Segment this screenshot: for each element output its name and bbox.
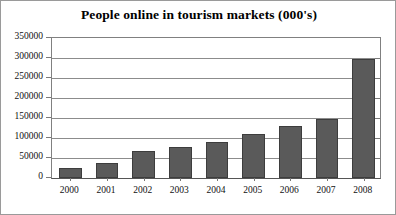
x-axis-tick xyxy=(254,178,255,181)
y-axis-tick-label: 0 xyxy=(0,172,43,182)
x-axis-tick xyxy=(70,178,71,181)
bar xyxy=(59,168,82,178)
x-axis-tick xyxy=(217,178,218,181)
bar xyxy=(352,59,375,178)
x-axis-tick-label: 2005 xyxy=(234,185,271,195)
x-axis-tick xyxy=(180,178,181,181)
y-axis-tick-label: 100000 xyxy=(0,132,43,142)
bar xyxy=(96,163,119,178)
right-tick xyxy=(375,158,380,159)
gridline xyxy=(52,58,380,59)
x-axis-tick-label: 2001 xyxy=(88,185,125,195)
y-axis-tick-label: 300000 xyxy=(0,52,43,62)
y-axis-tick-label: 150000 xyxy=(0,112,43,122)
gridline xyxy=(52,98,380,99)
right-tick xyxy=(375,98,380,99)
bar xyxy=(169,147,192,178)
x-axis-tick xyxy=(290,178,291,181)
x-axis-tick-label: 2008 xyxy=(344,185,381,195)
x-axis-tick-label: 2007 xyxy=(308,185,345,195)
bar xyxy=(279,126,302,178)
plot-area xyxy=(51,37,381,179)
x-axis-tick xyxy=(327,178,328,181)
bar xyxy=(206,142,229,178)
bar xyxy=(316,119,339,178)
right-tick xyxy=(375,138,380,139)
x-axis-tick-label: 2000 xyxy=(51,185,88,195)
right-tick xyxy=(375,118,380,119)
y-axis-tick-label: 350000 xyxy=(0,32,43,42)
x-axis-tick-label: 2003 xyxy=(161,185,198,195)
x-axis-tick xyxy=(144,178,145,181)
right-tick xyxy=(375,78,380,79)
gridline xyxy=(52,78,380,79)
y-axis-tick-label: 200000 xyxy=(0,92,43,102)
x-axis-tick xyxy=(107,178,108,181)
right-tick xyxy=(375,58,380,59)
x-axis-tick-label: 2006 xyxy=(271,185,308,195)
bar xyxy=(242,134,265,178)
chart-container: People online in tourism markets (000's)… xyxy=(0,0,396,215)
x-axis-tick-label: 2004 xyxy=(198,185,235,195)
bar xyxy=(132,151,155,178)
chart-title: People online in tourism markets (000's) xyxy=(1,7,396,23)
y-axis-tick-label: 50000 xyxy=(0,152,43,162)
x-axis-tick-label: 2002 xyxy=(124,185,161,195)
y-axis-tick-label: 250000 xyxy=(0,72,43,82)
x-axis-tick xyxy=(364,178,365,181)
